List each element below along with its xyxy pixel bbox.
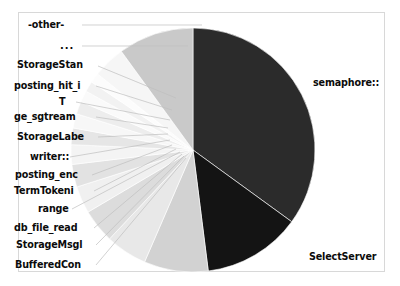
slice-label-right-0: semaphore:: (313, 77, 379, 88)
slice-label-left-13: BufferedCon (15, 259, 81, 270)
slice-label-left-10: range (38, 203, 69, 214)
slice-label-left-1: ... (60, 40, 74, 51)
slice-label-left-4: T (59, 96, 65, 107)
slice-label-left-12: StorageMsgl (16, 239, 82, 250)
pie-chart-figure: -other-...StorageStanposting_hit_iTge_sg… (0, 0, 400, 286)
slice-label-left-5: ge_sgtream (14, 111, 76, 122)
slice-label-left-3: posting_hit_i (14, 80, 80, 91)
slice-label-left-8: posting_enc (15, 169, 78, 180)
slice-label-right-1: SelectServer (309, 251, 376, 262)
slice-label-left-0: -other- (28, 19, 64, 30)
slice-label-left-9: TermTokeni (14, 185, 74, 196)
slice-label-left-11: db_file_read (14, 222, 77, 233)
slice-label-left-6: StorageLabe (17, 131, 84, 142)
slice-label-left-2: StorageStan (17, 59, 83, 70)
slice-label-left-7: writer:: (30, 151, 69, 162)
